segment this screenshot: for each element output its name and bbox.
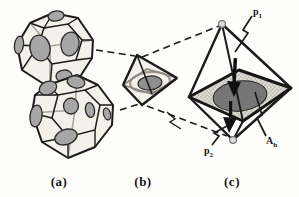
polyhedra-figure: p1 p2 Ah (a) (b) (c) [0,0,299,197]
panel-b [123,55,177,105]
cage-bottom [29,74,113,158]
vertex-marker-bottom [230,137,237,144]
label-p1: p1 [253,6,263,20]
window-disk [64,98,79,114]
vertex-marker-top [219,21,226,28]
panel-c: p1 p2 Ah [167,6,291,159]
dashed-connector-a-to-b-top [96,50,135,56]
label-p2: p2 [204,145,214,159]
dashed-connector-a-to-b-bottom [120,104,139,110]
label-ah: Ah [266,135,277,149]
caption-b: (b) [134,174,151,189]
down-arrow-lower-head [223,117,237,133]
zigzag-leader-left [167,112,181,129]
caption-c: (c) [224,174,240,189]
dashed-connector-b-to-c-top [142,26,219,57]
figure-canvas: p1 p2 Ah (a) (b) (c) [0,0,299,197]
caption-a: (a) [51,174,68,189]
down-arrow-lower-shaft [229,101,232,120]
zigzag-leader-p1 [235,16,252,52]
panel-a [13,10,113,158]
caption-row: (a) (b) (c) [51,174,240,189]
